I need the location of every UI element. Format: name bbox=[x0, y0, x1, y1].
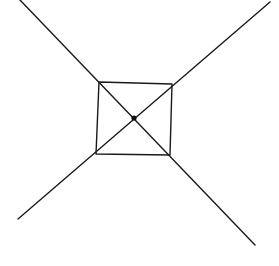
diagram-canvas bbox=[0, 0, 279, 266]
center-dot bbox=[131, 115, 136, 120]
diagonal-line-b bbox=[18, 2, 270, 219]
diagonal-line-a bbox=[20, 0, 255, 245]
